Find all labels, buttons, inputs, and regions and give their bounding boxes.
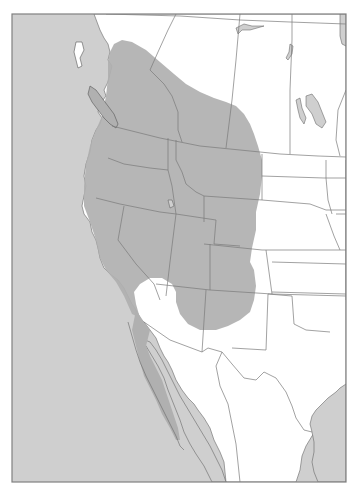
range-map	[0, 0, 360, 495]
